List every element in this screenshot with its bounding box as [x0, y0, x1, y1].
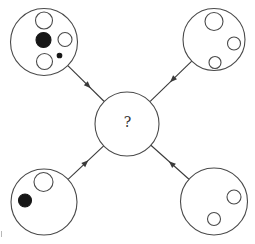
- concept-map-diagram: ?: [0, 0, 255, 244]
- figure-container: ?: [0, 0, 255, 244]
- node-bottom-right-dot-1-white: [227, 190, 241, 204]
- node-top-left-dot-4-black: [57, 53, 62, 58]
- node-top-left-dot-1-white: [36, 12, 53, 29]
- node-top-left-dot-3-white: [58, 33, 72, 47]
- node-top-right-dot-3-white: [209, 57, 221, 69]
- node-bottom-right: [181, 168, 248, 235]
- node-bottom-left-dot-1-white: [34, 173, 53, 192]
- node-bottom-right-dot-2-white: [208, 213, 221, 226]
- node-top-right-dot-2-white: [228, 37, 241, 50]
- center-question-label: ?: [124, 114, 132, 130]
- node-bottom-left: [11, 169, 77, 235]
- node-top-left-dot-2-black: [36, 33, 51, 48]
- node-top-left: [11, 9, 78, 76]
- node-bottom-left-dot-2-black: [19, 194, 32, 207]
- node-top-right: [183, 9, 245, 71]
- node-top-left-dot-5-white: [37, 54, 53, 70]
- node-top-right-dot-1-white: [205, 13, 223, 31]
